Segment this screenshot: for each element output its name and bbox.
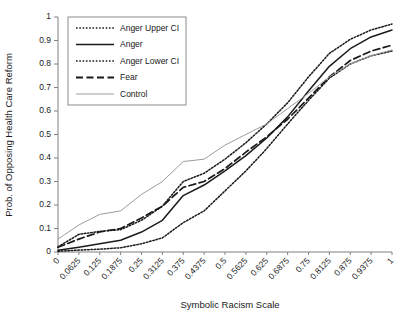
chart-container: 00.10.20.30.40.50.60.70.80.91 00.06250.1… [0,0,401,315]
y-tick-label: 0.7 [39,82,51,92]
y-tick-label: 0 [46,246,51,256]
legend-label-fear: Fear [120,72,138,82]
x-tick-label: 0.5625 [224,255,249,281]
x-axis: 00.06250.1250.18750.250.31250.3750.43750… [51,252,396,281]
x-tick-label: 0.0625 [57,255,82,281]
x-tick-label: 0.9375 [350,255,375,281]
x-tick-label: 0.6875 [266,255,291,281]
chart-legend: Anger Upper CIAngerAnger Lower CIFearCon… [68,17,186,105]
x-tick-label: 0 [51,255,62,265]
legend-label-anger-lower-ci: Anger Lower CI [120,56,179,66]
y-tick-label: 0.3 [39,176,51,186]
y-tick-label: 0.2 [39,199,51,209]
y-tick-label: 0.1 [39,223,51,233]
legend-label-control: Control [120,89,148,99]
y-axis: 00.10.20.30.40.50.60.70.80.91 [39,11,58,256]
y-tick-label: 1 [46,11,51,21]
legend-label-anger: Anger [120,39,143,49]
x-tick-label: 0.5 [213,255,229,271]
line-chart: 00.10.20.30.40.50.60.70.80.91 00.06250.1… [0,0,401,315]
y-tick-label: 0.6 [39,105,51,115]
y-tick-label: 0.5 [39,129,51,139]
x-axis-title: Symbolic Racism Scale [180,299,279,310]
x-tick-label: 0.3125 [141,255,166,281]
y-tick-label: 0.8 [39,58,51,68]
x-tick-label: 0.4375 [183,255,208,281]
x-tick-label: 0.1875 [99,255,124,281]
x-tick-label: 0.8125 [308,255,333,281]
legend-label-anger-upper-ci: Anger Upper CI [120,23,179,33]
y-tick-label: 0.9 [39,35,51,45]
y-tick-label: 0.4 [39,152,51,162]
x-tick-label: 1 [385,255,396,265]
y-axis-title: Prob. of Opposing Health Care Reform [3,53,14,217]
